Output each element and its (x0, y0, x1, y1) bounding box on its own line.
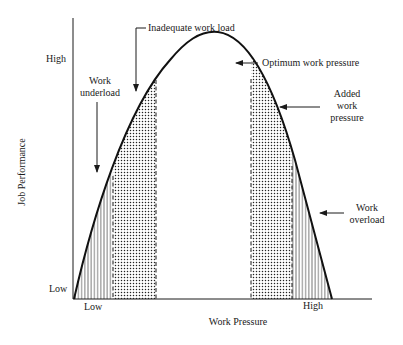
inverted-u-performance-diagram: High Low Job Performance Low High Work P… (0, 0, 403, 345)
label-work-overload-2: overload (350, 214, 385, 225)
x-axis-high-label: High (303, 300, 323, 311)
region-work-overload (292, 0, 333, 299)
label-added-work-pressure-1: Added (334, 88, 361, 99)
label-added-work-pressure-3: pressure (330, 112, 364, 123)
label-work-underload-1: Work (89, 75, 111, 86)
label-work-overload-1: Work (356, 202, 378, 213)
label-optimum-work-pressure: Optimum work pressure (262, 57, 360, 68)
region-work-underload (74, 0, 113, 299)
x-axis-low-label: Low (84, 301, 103, 312)
inadequate-work-load-arrow (136, 28, 146, 91)
y-axis-low-label: Low (49, 283, 68, 294)
region-added-work-pressure (251, 0, 292, 299)
label-added-work-pressure-2: work (337, 100, 358, 111)
y-axis-title: Job Performance (16, 138, 27, 206)
label-inadequate-work-load: Inadequate work load (148, 22, 235, 33)
label-work-underload-2: underload (80, 87, 120, 98)
y-axis-high-label: High (46, 53, 66, 64)
x-axis-title: Work Pressure (209, 316, 268, 327)
